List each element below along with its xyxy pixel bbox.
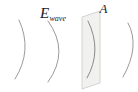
diagram-canvas: E wave A [0,0,138,92]
wavefront-arc-right [123,23,133,77]
aperture-label: A [99,1,108,16]
aperture-plane [82,11,100,89]
wavefront-aperture-diagram: E wave A [0,0,138,92]
wavefront-arc-1 [15,20,25,79]
wavefront-arc-2 [48,21,59,82]
field-label-subscript: wave [50,14,67,23]
field-label: E [39,5,49,21]
